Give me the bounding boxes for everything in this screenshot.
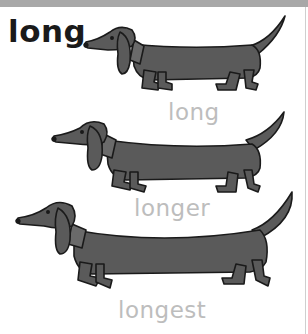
page-title: long xyxy=(8,16,86,47)
dachshund-2-illustration xyxy=(48,100,293,200)
dachshund-3-illustration xyxy=(12,190,297,300)
dachshund-1-illustration xyxy=(80,10,295,95)
frame-border xyxy=(305,7,306,334)
top-band xyxy=(0,0,308,7)
label-longest: longest xyxy=(118,299,206,322)
